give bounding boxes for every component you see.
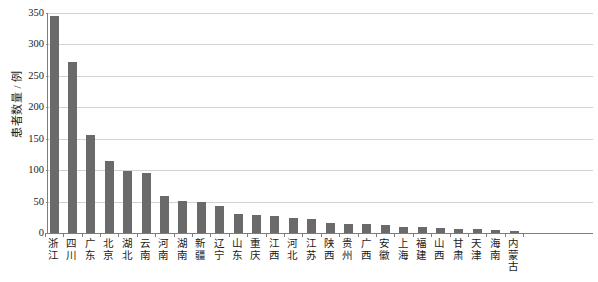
x-axis-tick-mark [174, 233, 175, 237]
bar [142, 173, 151, 233]
x-axis-category-label: 内蒙古 [505, 238, 518, 273]
x-axis-tick-mark [229, 233, 230, 237]
x-axis-category-label: 四川 [63, 238, 76, 261]
y-axis-tick-label: 0 [16, 228, 44, 238]
y-axis-tick-label: 100 [16, 165, 44, 175]
y-axis-tick-labels: 050100150200250300350 [16, 0, 44, 240]
x-axis-tick-mark [45, 233, 46, 237]
x-axis-category-label: 新疆 [192, 238, 205, 261]
y-axis-tick-label: 150 [16, 134, 44, 144]
bar [105, 161, 114, 233]
x-axis-category-label: 河南 [155, 238, 168, 261]
bar [381, 225, 390, 233]
bar [491, 230, 500, 233]
bar [252, 215, 261, 233]
x-axis-tick-mark [82, 233, 83, 237]
bar [86, 135, 95, 233]
x-axis-tick-mark [358, 233, 359, 237]
x-axis-category-label: 安徽 [376, 238, 389, 261]
bar [473, 229, 482, 233]
x-axis-category-label: 北京 [100, 238, 113, 261]
bar [178, 201, 187, 233]
y-axis-tick-label: 50 [16, 197, 44, 207]
x-axis-category-label: 陕西 [321, 238, 334, 261]
x-axis-tick-mark [376, 233, 377, 237]
x-axis-category-label: 湖北 [118, 238, 131, 261]
bar [399, 227, 408, 233]
x-axis-tick-mark [284, 233, 285, 237]
bar [197, 202, 206, 233]
x-axis-category-label: 云南 [137, 238, 150, 261]
bar [326, 223, 335, 233]
x-axis-tick-mark [100, 233, 101, 237]
bar [344, 224, 353, 233]
y-axis-tick-label: 300 [16, 39, 44, 49]
x-axis-category-label: 江苏 [302, 238, 315, 261]
x-axis-category-label: 江西 [265, 238, 278, 261]
x-axis-tick-mark [468, 233, 469, 237]
x-axis-category-label: 湖南 [173, 238, 186, 261]
y-axis-tick-label: 200 [16, 102, 44, 112]
bar [307, 219, 316, 233]
x-axis-tick-mark [413, 233, 414, 237]
x-axis-tick-mark [247, 233, 248, 237]
x-axis-tick-mark [339, 233, 340, 237]
bar [234, 214, 243, 233]
x-axis-tick-mark [192, 233, 193, 237]
bars-series [48, 13, 593, 233]
bar [362, 224, 371, 233]
bar [68, 62, 77, 233]
x-axis-tick-mark [450, 233, 451, 237]
bar [215, 206, 224, 233]
x-axis-tick-mark [321, 233, 322, 237]
x-axis-category-label: 河北 [284, 238, 297, 261]
x-axis-category-label: 浙江 [45, 238, 58, 261]
bar [510, 231, 519, 234]
x-axis-tick-mark [486, 233, 487, 237]
x-axis-tick-mark [523, 233, 524, 237]
x-axis-tick-mark [505, 233, 506, 237]
y-axis-tick-label: 250 [16, 71, 44, 81]
x-axis-tick-mark [431, 233, 432, 237]
x-axis-category-label: 海南 [486, 238, 499, 261]
x-axis-tick-mark [266, 233, 267, 237]
bar-chart: 患者数量 / 例 050100150200250300350 浙江四川广东北京湖… [0, 0, 598, 282]
x-axis-category-label: 重庆 [247, 238, 260, 261]
bar [418, 227, 427, 233]
y-axis-tick-label: 350 [16, 8, 44, 18]
x-axis-category-label: 广东 [81, 238, 94, 261]
x-axis-tick-mark [137, 233, 138, 237]
bar [160, 196, 169, 233]
bar [454, 229, 463, 233]
plot-area [47, 13, 593, 234]
x-axis-tick-mark [302, 233, 303, 237]
x-axis-tick-mark [210, 233, 211, 237]
x-axis-tick-mark [118, 233, 119, 237]
x-axis-category-label: 上海 [394, 238, 407, 261]
x-axis-category-label: 贵州 [339, 238, 352, 261]
x-axis-category-label: 天津 [468, 238, 481, 261]
x-axis-category-label: 广西 [357, 238, 370, 261]
x-axis-tick-mark [155, 233, 156, 237]
x-axis-category-label: 山西 [431, 238, 444, 261]
x-axis-category-label: 福建 [413, 238, 426, 261]
bar [270, 216, 279, 233]
x-axis-tick-mark [394, 233, 395, 237]
bar [289, 218, 298, 233]
x-axis-category-label: 辽宁 [210, 238, 223, 261]
x-axis-category-label: 甘肃 [449, 238, 462, 261]
bar [123, 171, 132, 233]
x-axis-category-labels: 浙江四川广东北京湖北云南河南湖南新疆辽宁山东重庆江西河北江苏陕西贵州广西安徽上海… [47, 238, 592, 282]
bar [436, 228, 445, 233]
bar [50, 16, 59, 233]
x-axis-tick-mark [63, 233, 64, 237]
x-axis-category-label: 山东 [229, 238, 242, 261]
